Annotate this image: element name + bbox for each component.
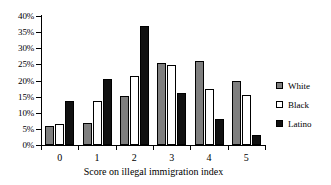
bar-white-2: [120, 96, 129, 145]
x-axis-tick: [265, 146, 266, 150]
bar-white-5: [232, 81, 241, 145]
plot-area: [41, 16, 265, 145]
legend-label: Latino: [288, 119, 312, 129]
bar-white-3: [157, 63, 166, 145]
legend-swatch-icon: [276, 82, 283, 89]
chart-legend: WhiteBlackLatino: [276, 76, 331, 133]
legend-item-white: White: [276, 76, 331, 95]
x-axis-tick-label: 4: [194, 152, 224, 163]
bar-latino-1: [103, 79, 112, 145]
x-axis-tick: [78, 146, 79, 150]
bar-black-1: [93, 101, 102, 145]
x-axis-tick: [228, 146, 229, 150]
x-axis-tick: [190, 146, 191, 150]
legend-label: Black: [288, 100, 309, 110]
bar-latino-4: [215, 119, 224, 145]
y-axis-tick-label-text: 10%: [0, 109, 34, 118]
x-axis-title: Score on illegal immigration index: [41, 166, 266, 177]
bar-latino-2: [140, 26, 149, 145]
y-axis-tick-label-text: 35%: [0, 28, 34, 37]
bar-white-4: [195, 61, 204, 145]
y-axis-tick-label: 10%: [0, 109, 34, 118]
legend-swatch-icon: [276, 101, 283, 108]
x-axis-tick-label: 0: [45, 152, 75, 163]
bar-latino-3: [177, 93, 186, 145]
x-axis-tick-label: 3: [157, 152, 187, 163]
bar-black-4: [205, 89, 214, 145]
legend-swatch-icon: [276, 120, 283, 127]
x-axis-tick-label: 2: [119, 152, 149, 163]
y-axis-tick-label-text: 20%: [0, 77, 34, 86]
x-axis-tick-label: 5: [231, 152, 261, 163]
y-axis-tick-label-text: 0%: [0, 141, 34, 150]
y-axis-tick-label: 25%: [0, 60, 34, 69]
bar-chart: 0%5%10%15%20%25%30%35%40% 012345 Score o…: [0, 0, 331, 185]
bar-black-5: [242, 95, 251, 145]
bar-latino-0: [65, 101, 74, 145]
bar-latino-5: [252, 135, 261, 145]
legend-item-latino: Latino: [276, 114, 331, 133]
y-axis-tick-label-text: 40%: [0, 12, 34, 21]
x-axis-tick: [153, 146, 154, 150]
bar-white-0: [45, 126, 54, 145]
bar-black-0: [55, 124, 64, 145]
bar-black-2: [130, 76, 139, 145]
y-axis-tick-label: 15%: [0, 93, 34, 102]
legend-label: White: [288, 81, 310, 91]
bar-white-1: [83, 123, 92, 145]
y-axis-tick-label: 20%: [0, 77, 34, 86]
x-axis-tick-label: 1: [82, 152, 112, 163]
y-axis-tick-label: 35%: [0, 28, 34, 37]
y-axis-tick-label: 30%: [0, 44, 34, 53]
x-axis-tick: [116, 146, 117, 150]
y-axis-tick-label-text: 5%: [0, 125, 34, 134]
y-axis-tick-label: 5%: [0, 125, 34, 134]
legend-item-black: Black: [276, 95, 331, 114]
y-axis-tick-label-text: 30%: [0, 44, 34, 53]
y-axis-tick-label-text: 25%: [0, 60, 34, 69]
y-axis-tick-label: 40%: [0, 12, 34, 21]
y-axis-tick-label: 0%: [0, 141, 34, 150]
x-axis-tick: [41, 146, 42, 150]
y-axis-tick-label-text: 15%: [0, 93, 34, 102]
bar-black-3: [167, 65, 176, 145]
